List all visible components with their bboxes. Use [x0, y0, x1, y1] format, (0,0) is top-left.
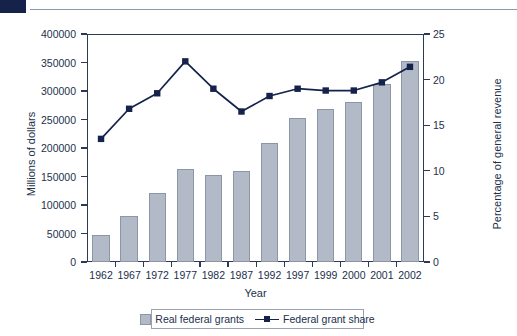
y-axis-right-tick [424, 33, 430, 34]
y-axis-left-tick [81, 176, 87, 177]
x-axis-tick [227, 262, 228, 267]
y-axis-right-tick [424, 125, 430, 126]
y-axis-left-tick-label: 200000 [41, 143, 76, 154]
x-axis-tick-label: 1962 [87, 270, 115, 281]
y-axis-left-tick [81, 90, 87, 91]
x-axis-tick-label: 2000 [340, 270, 368, 281]
y-axis-left-tick-label: 150000 [41, 172, 76, 183]
y-axis-right-tick-label: 20 [433, 75, 445, 86]
bar [205, 175, 222, 262]
y-axis-right-tick [424, 216, 430, 217]
legend-item-real-federal-grants: Real federal grants [140, 313, 244, 325]
x-axis-tick-label: 1982 [199, 270, 227, 281]
page-corner-mark [0, 0, 26, 13]
y-axis-left-tick-label: 50000 [47, 229, 76, 240]
legend-label-real-federal-grants: Real federal grants [155, 313, 244, 325]
y-axis-left-tick [81, 147, 87, 148]
y-axis-left-tick-label: 300000 [41, 86, 76, 97]
x-axis-tick-label: 2001 [368, 270, 396, 281]
x-axis-tick [199, 262, 200, 267]
x-axis-tick [312, 262, 313, 267]
x-axis-tick [256, 262, 257, 267]
y-axis-left-tick [81, 119, 87, 120]
bar [149, 193, 166, 262]
y-axis-right-tick-label: 25 [433, 29, 445, 40]
bar [120, 216, 137, 262]
x-axis-tick-label: 1967 [115, 270, 143, 281]
x-axis-tick-label: 1992 [256, 270, 284, 281]
legend-square-marker [264, 316, 270, 322]
chart-legend: Real federal grants Federal grant share [151, 309, 364, 329]
bar [233, 171, 250, 262]
y-axis-left-tick [81, 62, 87, 63]
y-axis-right-tick-label: 0 [433, 257, 439, 268]
x-axis-tick [115, 262, 116, 267]
chart-figure: 0500001000001500002000002500003000003500… [0, 0, 517, 336]
x-axis-tick-label: 1977 [171, 270, 199, 281]
x-axis-tick-label: 1987 [227, 270, 255, 281]
bar [177, 169, 194, 262]
legend-label-federal-grant-share: Federal grant share [283, 313, 375, 325]
bar-swatch-icon [140, 314, 151, 325]
y-axis-left-tick-label: 100000 [41, 200, 76, 211]
bar [401, 61, 418, 262]
bar [345, 102, 362, 262]
y-axis-right-tick-label: 10 [433, 166, 445, 177]
y-axis-right-tick [424, 170, 430, 171]
y-axis-left-tick [81, 204, 87, 205]
x-axis-tick [340, 262, 341, 267]
y-axis-right-tick [424, 261, 430, 262]
y-axis-left-tick [81, 233, 87, 234]
y-axis-left-tick-label: 0 [70, 257, 76, 268]
y-axis-left-tick-label: 400000 [41, 29, 76, 40]
y-axis-right-tick-label: 5 [433, 211, 439, 222]
page-top-rule [30, 9, 517, 10]
x-axis-tick [368, 262, 369, 267]
x-axis-tick-label: 1997 [284, 270, 312, 281]
x-axis-tick-label: 2002 [396, 270, 424, 281]
x-axis-tick [396, 262, 397, 267]
y-axis-left-tick [81, 261, 87, 262]
bar [289, 118, 306, 262]
y-axis-left-tick-label: 250000 [41, 115, 76, 126]
x-axis-tick [171, 262, 172, 267]
bar [92, 235, 109, 262]
x-axis-tick-label: 1999 [312, 270, 340, 281]
y-axis-right-tick-label: 15 [433, 120, 445, 131]
bar [261, 143, 278, 262]
y-axis-left-tick [81, 33, 87, 34]
y-axis-left-title: Millions of dollars [25, 74, 37, 234]
y-axis-right-title: Percentage of general revenue [491, 39, 503, 269]
x-axis-title: Year [87, 287, 424, 299]
bar [317, 109, 334, 262]
x-axis-tick [143, 262, 144, 267]
y-axis-left-tick-label: 350000 [41, 58, 76, 69]
x-axis-tick-label: 1972 [143, 270, 171, 281]
bar [373, 84, 390, 262]
legend-item-federal-grant-share: Federal grant share [255, 313, 375, 325]
line-marker-icon [255, 314, 279, 325]
y-axis-right-tick [424, 79, 430, 80]
x-axis-tick [284, 262, 285, 267]
